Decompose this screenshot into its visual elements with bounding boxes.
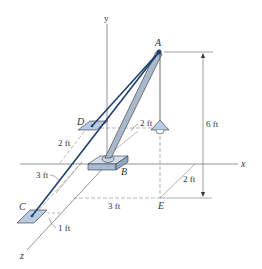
cable-ac bbox=[32, 52, 159, 216]
label-c: C bbox=[19, 201, 26, 212]
label-e: E bbox=[157, 200, 164, 211]
lamp-icon bbox=[151, 120, 169, 130]
y-axis-label: y bbox=[104, 13, 109, 23]
dim-dz-d: 2 ft bbox=[58, 138, 71, 148]
dim-c-offset: 1 ft bbox=[58, 223, 71, 233]
arrow-up-icon bbox=[201, 53, 205, 58]
label-a: A bbox=[154, 37, 162, 48]
dim-cable-c: 3 ft bbox=[36, 170, 49, 180]
bulb-icon bbox=[156, 130, 164, 134]
leader-cable-c bbox=[50, 175, 59, 180]
x-axis-label: x bbox=[240, 158, 246, 169]
diagram-figure: y x z 6 ft D C B A E 2 ft 2 ft bbox=[0, 0, 262, 269]
boom-ab bbox=[105, 52, 162, 158]
height-label: 6 ft bbox=[206, 119, 219, 129]
dim-d-offset: 2 ft bbox=[140, 118, 153, 128]
label-b: B bbox=[121, 166, 127, 177]
c-offset-line bbox=[56, 162, 82, 193]
leader-d-offset bbox=[131, 124, 138, 131]
arrow-down-icon bbox=[201, 192, 205, 197]
label-d: D bbox=[76, 116, 85, 127]
z-axis-label: z bbox=[19, 250, 24, 261]
dim-e-x: 3 ft bbox=[108, 201, 121, 211]
plate-b-front bbox=[88, 164, 116, 170]
dim-e-z: 2 ft bbox=[183, 174, 196, 184]
point-a bbox=[157, 50, 162, 55]
